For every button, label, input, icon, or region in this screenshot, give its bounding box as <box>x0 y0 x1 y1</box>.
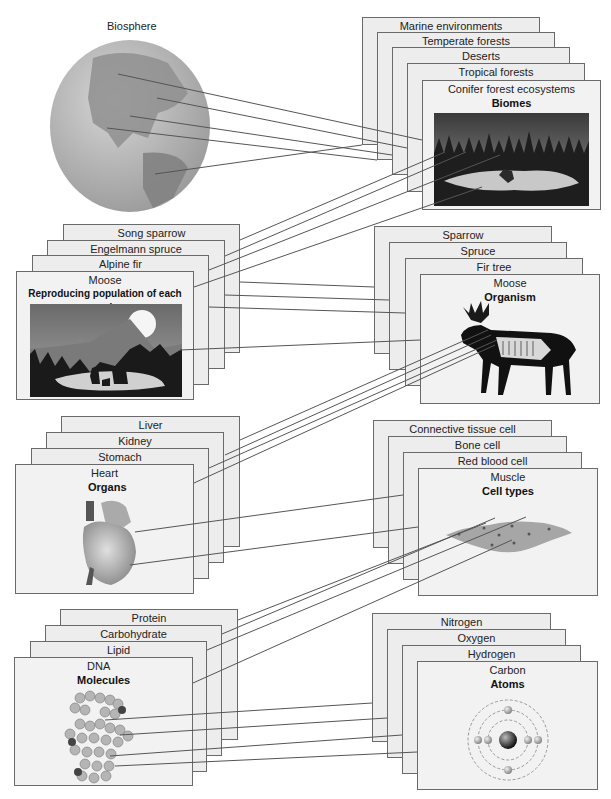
card-label: Protein <box>61 611 237 625</box>
card-conifer-forest-biomes: Conifer forest ecosystems Biomes <box>422 80 601 210</box>
card-label: Alpine fir <box>33 257 208 271</box>
biosphere-label: Biosphere <box>107 20 157 32</box>
card-label: Temperate forests <box>378 34 554 48</box>
card-label: Conifer forest ecosystems <box>423 82 600 96</box>
card-label: Engelmann spruce <box>48 242 224 256</box>
card-dna-molecules: DNA Molecules <box>14 657 193 786</box>
card-label: Fir tree <box>406 260 582 274</box>
card-label: Moose <box>421 276 599 290</box>
card-label: Lipid <box>31 643 206 657</box>
level-title-cell-types: Cell types <box>419 484 597 498</box>
card-label: Connective tissue cell <box>374 422 551 436</box>
card-heart-organs: Heart Organs <box>15 464 194 594</box>
globe-illustration <box>48 38 213 213</box>
carbon-atom-illustration <box>466 698 550 782</box>
mountain-lake-illustration <box>30 304 182 397</box>
card-label: Muscle <box>419 470 597 484</box>
level-title-atoms: Atoms <box>418 677 597 691</box>
card-label: Moose <box>17 273 193 287</box>
card-label: Carbohydrate <box>46 627 221 641</box>
heart-illustration <box>76 497 146 589</box>
card-label: Song sparrow <box>64 226 239 240</box>
card-carbon-atoms: Carbon Atoms <box>417 661 598 790</box>
card-label: Sparrow <box>375 228 551 242</box>
level-title-molecules: Molecules <box>15 673 192 687</box>
forest-illustration <box>434 113 589 206</box>
card-label: Tropical forests <box>408 65 584 79</box>
card-label: Red blood cell <box>404 454 581 468</box>
level-title-organs: Organs <box>16 480 193 494</box>
card-moose-population: Moose Reproducing population of each spe… <box>16 271 194 400</box>
card-label: Heart <box>16 466 193 480</box>
card-moose-organism: Moose Organism <box>420 274 600 404</box>
card-label: Nitrogen <box>373 615 550 629</box>
card-muscle-cell-types: Muscle Cell types <box>418 468 598 596</box>
card-label: Kidney <box>47 434 223 448</box>
muscle-cells-illustration <box>444 517 574 557</box>
level-title-biomes: Biomes <box>423 96 600 110</box>
card-label: Carbon <box>418 663 597 677</box>
dna-model-illustration <box>60 690 140 785</box>
card-label: Deserts <box>393 49 569 63</box>
card-label: Liver <box>62 418 239 432</box>
card-label: Hydrogen <box>403 647 580 661</box>
card-label: Marine environments <box>363 19 539 33</box>
moose-anatomy-illustration <box>441 295 581 401</box>
card-label: Bone cell <box>389 438 566 452</box>
card-label: Oxygen <box>388 631 565 645</box>
card-label: Stomach <box>32 450 208 464</box>
card-label: DNA <box>15 659 192 673</box>
card-label: Spruce <box>390 244 566 258</box>
